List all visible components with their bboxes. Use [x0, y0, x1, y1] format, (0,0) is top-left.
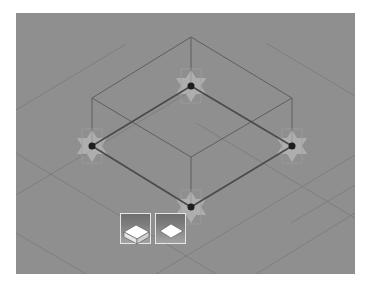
- base-edge: [191, 146, 292, 207]
- vertex-gizmos: [77, 69, 307, 224]
- box-wireframe: [92, 37, 292, 207]
- grid-line: [256, 213, 355, 274]
- base-outline: [92, 86, 292, 207]
- grid-line: [16, 44, 126, 116]
- base-edge: [92, 146, 191, 207]
- vertex-handle-right[interactable]: [289, 143, 296, 150]
- plane-mode-button[interactable]: [155, 213, 186, 244]
- grid-line: [291, 185, 355, 223]
- grid-line: [266, 43, 355, 96]
- base-edge: [92, 86, 191, 146]
- extrude-mode-button[interactable]: [120, 213, 151, 244]
- grid-line: [196, 123, 355, 218]
- grid-line: [16, 91, 191, 201]
- grid-line: [16, 233, 86, 274]
- 3d-viewport[interactable]: [16, 13, 355, 274]
- base-edge: [191, 86, 292, 146]
- flat-plane-icon: [156, 214, 187, 245]
- vertex-handle-bottom[interactable]: [188, 204, 195, 211]
- vertex-handle-left[interactable]: [89, 143, 96, 150]
- extruded-slab-icon: [121, 214, 152, 245]
- vertex-handle-top[interactable]: [188, 83, 195, 90]
- vertex-handles: [89, 83, 296, 211]
